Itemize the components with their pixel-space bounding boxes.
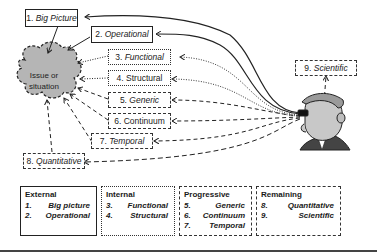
perspective-quantitative: 8. Quantitative [23, 153, 85, 169]
perspective-num: 8. [27, 157, 34, 166]
legend-num: 2. [25, 211, 46, 221]
legend-num: 7. [184, 221, 206, 231]
legend-name: Big picture [47, 201, 92, 211]
perspective-temporal: 7. Temporal [91, 133, 153, 149]
perspective-num: 6. [114, 117, 121, 126]
sight-line-continuum [172, 117, 300, 121]
legend-title: Progressive [184, 190, 247, 199]
legend-row: 2.Operational [25, 211, 92, 221]
legend-row: 7.Temporal [184, 221, 247, 231]
sight-line-operational [156, 34, 300, 114]
perspective-name: Operational [105, 30, 149, 39]
legend-row: 5.Generic [184, 201, 247, 211]
legend-name: Functional [128, 201, 170, 211]
legend-row: 1.Big picture [25, 201, 92, 211]
legend-num: 4. [106, 211, 128, 221]
legend-num: 9. [261, 211, 283, 221]
arrow-operational-to-issue [68, 37, 90, 50]
perspective-functional: 3. Functional [108, 49, 171, 65]
perspective-num: 7. [100, 137, 107, 146]
perspective-name: Continuum [124, 117, 165, 126]
legend-name: Quantitative [283, 201, 336, 211]
perspective-scientific: 9. Scientific [295, 60, 357, 76]
issue-label: Issue or situation [20, 70, 68, 92]
legend-num: 6. [184, 211, 203, 221]
legend-remaining: Remaining 8.Quantitative 9.Scientific [256, 186, 341, 236]
perspective-num: 2. [95, 30, 102, 39]
perspective-name: Big Picture [36, 14, 77, 23]
legend-external: External 1.Big picture 2.Operational [20, 186, 97, 236]
legend-title: Remaining [261, 190, 336, 199]
perspective-num: 5. [120, 96, 127, 105]
legend-name: Scientific [283, 211, 336, 221]
legend-row: 3.Functional [106, 201, 170, 211]
arrow-generic-to-issue [78, 88, 108, 99]
legend-name: Operational [46, 211, 92, 221]
legend-internal: Internal 3.Functional 4.Structural [101, 186, 175, 236]
perspective-name: Temporal [109, 137, 144, 146]
perspective-num: 3. [115, 53, 122, 62]
legend-num: 8. [261, 201, 283, 211]
perspective-big-picture: 1. Big Picture [25, 9, 78, 27]
perspective-name: Generic [129, 96, 159, 105]
legend-row: 4.Structural [106, 211, 170, 221]
binoculars-icon [298, 110, 308, 116]
perspective-name: Scientific [314, 64, 348, 73]
perspective-num: 4. [117, 74, 124, 83]
legend-title: Internal [106, 190, 170, 199]
perspective-continuum: 6. Continuum [108, 113, 171, 129]
legend-name: Temporal [206, 221, 247, 231]
perspective-name: Structural [126, 74, 162, 83]
sight-line-structural [172, 79, 300, 116]
legend-row: 8.Quantitative [261, 201, 336, 211]
perspective-num: 9. [304, 64, 311, 73]
legend-name: Continuum [203, 211, 247, 221]
perspective-operational: 2. Operational [91, 26, 153, 43]
perspective-structural: 4. Structural [108, 70, 171, 86]
legend-name: Generic [206, 201, 247, 211]
arrow-structural-to-issue [80, 78, 108, 79]
legend-title: External [25, 190, 92, 199]
legend-name: Structural [128, 211, 170, 221]
sight-line-generic [172, 100, 300, 116]
perspective-name: Functional [125, 53, 164, 62]
arrow-temporal-to-issue [64, 98, 92, 142]
perspective-num: 1. [26, 14, 33, 23]
arrow-functional-to-issue [78, 56, 108, 63]
legend-progressive: Progressive 5.Generic 6.Continuum 7.Temp… [179, 186, 252, 236]
arrow-quantitative-to-issue [47, 100, 52, 152]
observer-person-icon [298, 93, 350, 150]
legend-num: 3. [106, 201, 128, 211]
perspective-generic: 5. Generic [108, 92, 171, 108]
legend-row: 9.Scientific [261, 211, 336, 221]
legend-num: 1. [25, 201, 47, 211]
perspective-name: Quantitative [36, 157, 81, 166]
legend-row: 6.Continuum [184, 211, 247, 221]
legend-num: 5. [184, 201, 206, 211]
